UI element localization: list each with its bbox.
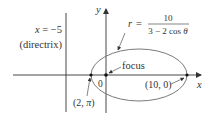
x-axis-label: x bbox=[196, 79, 202, 90]
origin-label: 0 bbox=[98, 79, 103, 89]
y-axis-label: y bbox=[95, 4, 101, 15]
equation-denominator: 3 − 2 cos θ bbox=[148, 26, 188, 36]
left-vertex-point bbox=[89, 73, 92, 76]
equation-numerator: 10 bbox=[164, 13, 174, 23]
directrix-label: (directrix) bbox=[19, 39, 62, 51]
right-vertex-point bbox=[185, 73, 188, 76]
diagram-canvas: x = −5 (directrix) y x 0 r = 10 3 − 2 co… bbox=[0, 0, 217, 122]
equation-lhs: r bbox=[128, 18, 133, 29]
left-vertex-label: (2, π) bbox=[73, 97, 95, 109]
equation-equals: = bbox=[136, 18, 142, 29]
focus-point bbox=[104, 73, 108, 77]
focus-leader bbox=[109, 67, 121, 73]
directrix-equation: x = −5 bbox=[34, 24, 62, 35]
right-vertex-leader bbox=[171, 78, 184, 84]
focus-label: focus bbox=[122, 60, 145, 71]
equation-leader bbox=[118, 33, 125, 50]
left-vertex-leader bbox=[87, 78, 90, 96]
right-vertex-label: (10, 0) bbox=[145, 79, 172, 91]
